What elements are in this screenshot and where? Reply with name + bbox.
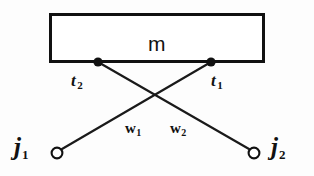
wire-label-w1: w1 [125,121,141,138]
wire-label-w2-subscript: 2 [181,127,187,138]
junction-label-j2-subscript: 2 [278,147,286,162]
terminal-dot-t1 [206,57,215,66]
junction-label-j1-base: j [14,133,21,160]
wire-label-w1-subscript: 1 [136,127,142,138]
module-label: m [148,33,166,54]
junction-label-j1: j1 [14,134,28,161]
schematic-figure: m t2 t1 w1 w2 j1 j2 [0,0,314,176]
junction-circle-j1 [52,148,63,159]
terminal-label-t2-subscript: 2 [76,79,83,91]
junction-label-j2: j2 [271,134,285,161]
terminal-label-t2: t2 [71,72,83,91]
wire-label-w1-base: w [125,120,136,136]
wire-label-w2-base: w [170,120,181,136]
junction-circle-j2 [249,148,260,159]
junction-label-j2-base: j [271,133,278,160]
wire-label-w2: w2 [170,121,186,138]
terminal-dot-t2 [93,57,102,66]
diagram-canvas [0,0,314,176]
terminal-label-t1: t1 [211,72,223,91]
junction-label-j1-subscript: 1 [21,147,29,162]
terminal-label-t1-subscript: 1 [216,79,223,91]
